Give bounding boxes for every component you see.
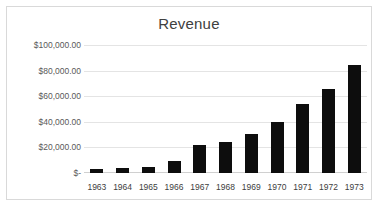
y-axis-tick-label: $80,000.00	[9, 66, 81, 76]
x-axis-tick-label: 1965	[139, 182, 158, 192]
bar-slot	[213, 45, 239, 173]
x-axis-tick-slot: 1968	[213, 176, 239, 194]
x-axis-tick-label: 1964	[113, 182, 132, 192]
bar[interactable]	[245, 134, 258, 173]
bar-slot	[110, 45, 136, 173]
x-axis-tick-label: 1966	[165, 182, 184, 192]
bar[interactable]	[193, 145, 206, 173]
x-axis-tick-label: 1970	[268, 182, 287, 192]
x-axis-tick-label: 1968	[216, 182, 235, 192]
bar[interactable]	[219, 142, 232, 173]
bar[interactable]	[271, 122, 284, 173]
bar-slot	[264, 45, 290, 173]
bar-slot	[238, 45, 264, 173]
x-axis-tick-slot: 1969	[238, 176, 264, 194]
bar[interactable]	[322, 89, 335, 173]
x-axis-tick-slot: 1970	[264, 176, 290, 194]
plot-area	[84, 45, 367, 173]
y-axis-tick-label: $60,000.00	[9, 91, 81, 101]
bar[interactable]	[116, 168, 129, 173]
y-axis-tick-label: $100,000.00	[9, 40, 81, 50]
bar-slot	[161, 45, 187, 173]
x-axis-tick-slot: 1966	[161, 176, 187, 194]
bar[interactable]	[348, 65, 361, 173]
x-axis-tick-label: 1963	[87, 182, 106, 192]
x-axis-tick-slot: 1963	[84, 176, 110, 194]
x-axis-tick-slot: 1967	[187, 176, 213, 194]
bar-slot	[290, 45, 316, 173]
bar[interactable]	[142, 167, 155, 173]
x-axis-tick-slot: 1973	[341, 176, 367, 194]
bar-slot	[187, 45, 213, 173]
bar-slot	[316, 45, 342, 173]
x-axis-tick-label: 1969	[242, 182, 261, 192]
x-axis: 1963196419651966196719681969197019711972…	[84, 176, 367, 194]
bar[interactable]	[90, 169, 103, 173]
y-axis: $-$20,000.00$40,000.00$60,000.00$80,000.…	[7, 45, 81, 173]
chart-container: Revenue $-$20,000.00$40,000.00$60,000.00…	[6, 6, 372, 200]
chart-title: Revenue	[7, 15, 371, 32]
x-axis-tick-slot: 1972	[316, 176, 342, 194]
bar[interactable]	[296, 104, 309, 173]
x-axis-tick-label: 1971	[293, 182, 312, 192]
x-axis-tick-slot: 1971	[290, 176, 316, 194]
x-axis-tick-label: 1972	[319, 182, 338, 192]
bar[interactable]	[168, 161, 181, 173]
y-axis-tick-label: $20,000.00	[9, 142, 81, 152]
bar-series	[84, 45, 367, 173]
x-axis-tick-label: 1967	[190, 182, 209, 192]
y-axis-tick-label: $-	[9, 168, 81, 178]
x-axis-tick-slot: 1964	[110, 176, 136, 194]
x-axis-tick-slot: 1965	[135, 176, 161, 194]
bar-slot	[135, 45, 161, 173]
y-axis-tick-label: $40,000.00	[9, 117, 81, 127]
x-axis-tick-label: 1973	[345, 182, 364, 192]
bar-slot	[341, 45, 367, 173]
bar-slot	[84, 45, 110, 173]
